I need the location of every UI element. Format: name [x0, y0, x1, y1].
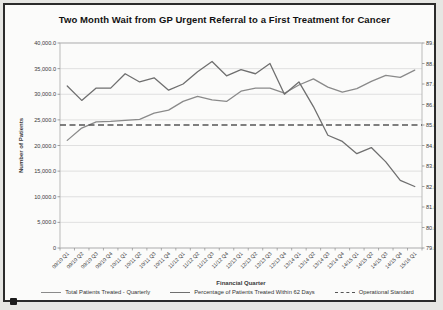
svg-text:81.0%: 81.0% [426, 204, 434, 210]
svg-text:Number of Patients: Number of Patients [18, 117, 24, 173]
dashed-line-marker-icon [335, 292, 355, 293]
svg-text:5,000.0: 5,000.0 [37, 219, 56, 225]
legend-item-percentage: Percentage of Patients Treated Within 62… [170, 289, 315, 295]
svg-text:20,000.0: 20,000.0 [34, 143, 56, 149]
svg-text:40,000.0: 40,000.0 [34, 40, 56, 46]
chart-title: Two Month Wait from GP Urgent Referral t… [35, 14, 414, 25]
scan-artifact-mark [10, 298, 17, 305]
svg-text:30,000.0: 30,000.0 [34, 91, 56, 97]
svg-text:89.0%: 89.0% [426, 40, 434, 46]
legend-label: Operational Standard [359, 289, 414, 295]
svg-text:83.0%: 83.0% [426, 163, 434, 169]
svg-text:15,000.0: 15,000.0 [34, 168, 56, 174]
legend-label: Percentage of Patients Treated Within 62… [194, 289, 315, 295]
svg-text:85.0%: 85.0% [426, 122, 434, 128]
line-chart-canvas: 40,000.035,000.030,000.025,000.020,000.0… [5, 27, 434, 306]
svg-text:82.0%: 82.0% [426, 184, 434, 190]
solid-line-marker-icon [41, 292, 61, 293]
legend-item-operational-standard: Operational Standard [335, 289, 414, 295]
legend-item-total-patients: Total Patients Treated - Quarterly [41, 289, 150, 295]
chart-page-frame: Two Month Wait from GP Urgent Referral t… [3, 3, 436, 302]
chart-legend: Total Patients Treated - Quarterly Perce… [35, 289, 420, 295]
svg-text:0: 0 [53, 245, 56, 251]
solid-line-marker-icon [170, 292, 190, 293]
svg-text:80.0%: 80.0% [426, 225, 434, 231]
svg-text:87.0%: 87.0% [426, 81, 434, 87]
svg-text:25,000.0: 25,000.0 [34, 117, 56, 123]
svg-text:86.0%: 86.0% [426, 102, 434, 108]
svg-text:35,000.0: 35,000.0 [34, 66, 56, 72]
svg-text:10,000.0: 10,000.0 [34, 194, 56, 200]
svg-text:Financial Quarter: Financial Quarter [216, 280, 266, 286]
legend-label: Total Patients Treated - Quarterly [65, 289, 150, 295]
svg-text:84.0%: 84.0% [426, 143, 434, 149]
svg-text:79.0%: 79.0% [426, 245, 434, 251]
svg-text:88.0%: 88.0% [426, 61, 434, 67]
